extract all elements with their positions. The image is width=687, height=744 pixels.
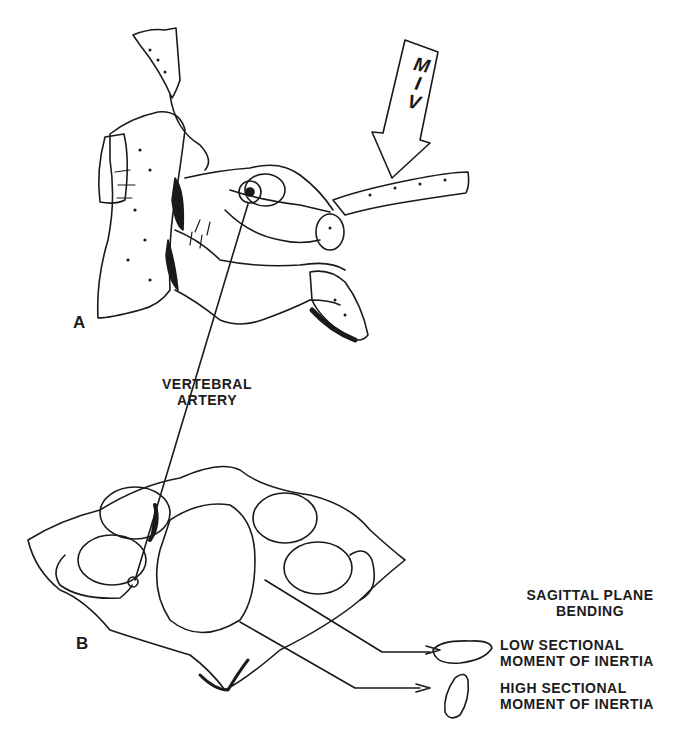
sagittal-plane-heading: SAGITTAL PLANE BENDING [510,587,670,619]
low-inertia-section-icon [433,641,492,663]
anatomical-drawing [0,0,687,744]
low-inertia-label: LOW SECTIONAL MOMENT OF INERTIA [500,637,654,669]
panel-b-drawing [28,466,492,717]
panel-label-b: B [76,634,89,654]
high-inertia-label: HIGH SECTIONAL MOMENT OF INERTIA [500,680,654,712]
high-inertia-section-icon [445,674,469,717]
vertebral-artery-label: VERTEBRAL ARTERY [152,376,262,408]
panel-label-a: A [73,313,86,333]
